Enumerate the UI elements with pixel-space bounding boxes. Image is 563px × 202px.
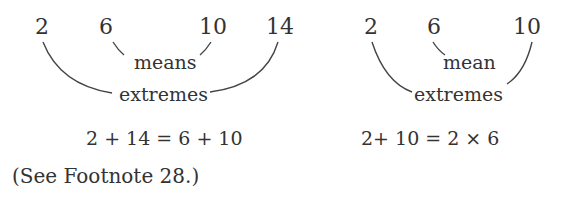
extremes-connector-left xyxy=(43,42,112,93)
left-means-label: means xyxy=(134,53,197,72)
footnote-reference: (See Footnote 28.) xyxy=(12,166,199,186)
right-mean-label: mean xyxy=(443,53,496,72)
left-number-1: 2 xyxy=(35,16,49,38)
extremes-connector-left-2 xyxy=(372,42,412,92)
right-number-3: 10 xyxy=(513,16,541,38)
right-extremes-label: extremes xyxy=(414,85,503,104)
extremes-connector-right xyxy=(210,42,278,92)
left-extremes-label: extremes xyxy=(119,85,208,104)
right-equation: 2+ 10 = 2 × 6 xyxy=(361,129,499,148)
right-number-1: 2 xyxy=(364,16,378,38)
means-connector-left xyxy=(113,42,124,55)
left-number-3: 10 xyxy=(199,16,227,38)
right-number-2: 6 xyxy=(427,16,441,38)
left-equation: 2 + 14 = 6 + 10 xyxy=(86,129,243,148)
extremes-connector-right-2 xyxy=(507,42,532,84)
left-number-2: 6 xyxy=(99,16,113,38)
means-connector-right xyxy=(200,42,211,55)
left-number-4: 14 xyxy=(266,16,294,38)
